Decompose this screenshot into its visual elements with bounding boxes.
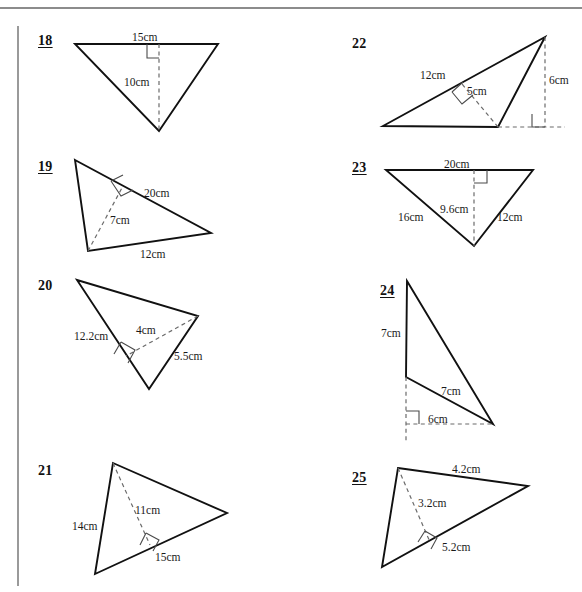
right-angle-marker-25 [425,531,437,549]
right-angle-marker-20b [114,342,121,354]
right-angle-marker-23 [474,170,487,183]
label-23-height: 9.6cm [440,203,468,215]
label-21-height: 11cm [135,504,160,516]
problem-number-22: 22 [352,36,367,52]
label-22-height: 5cm [467,85,487,97]
label-23-base: 20cm [444,158,470,170]
label-24-external-base: 6cm [428,413,448,425]
label-25-top-side: 4.2cm [452,463,480,475]
triangle-24-outline [406,281,493,424]
label-18-base: 15cm [132,31,158,43]
right-angle-marker-20 [121,342,135,363]
right-angle-marker-21b [140,533,146,545]
label-24-side: 7cm [381,327,401,339]
right-angle-marker-18 [147,44,159,58]
right-angle-marker-22-external [532,114,545,127]
label-25-height: 3.2cm [418,497,446,509]
right-angle-marker-22b [452,82,463,92]
triangle-19-outline [75,160,211,251]
worksheet-page: 18 15cm 10cm 19 20cm 7cm 12cm 20 12.2cm … [0,0,582,592]
right-angle-marker-24 [406,411,419,424]
problem-number-24: 24 [380,283,395,299]
label-22-side: 12cm [420,69,446,81]
top-divider-rule [0,7,582,9]
left-margin-rule [17,26,19,586]
right-angle-marker-19 [111,181,133,196]
label-21-base: 15cm [155,551,181,563]
label-20-side: 12.2cm [74,330,108,342]
problem-number-19: 19 [38,159,53,175]
problem-number-20: 20 [38,278,53,294]
problem-number-23: 23 [352,160,367,176]
label-20-base: 5.5cm [174,350,202,362]
right-angle-marker-21 [146,533,159,551]
label-23-left-side: 16cm [398,211,424,223]
problem-number-25: 25 [352,470,367,486]
label-19-height: 7cm [110,214,130,226]
label-23-right-side: 12cm [497,211,523,223]
label-21-side: 14cm [72,520,98,532]
problem-number-18: 18 [38,33,53,49]
label-19-base: 12cm [140,248,166,260]
right-angle-marker-19b [111,175,123,181]
triangle-22-outline [383,37,545,127]
right-angle-marker-25b [418,531,425,542]
label-22-external-height: 6cm [549,74,569,86]
label-25-base: 5.2cm [442,541,470,553]
label-24-base: 7cm [441,385,461,397]
label-19-side: 20cm [144,187,170,199]
label-20-height: 4cm [136,324,156,336]
problem-number-21: 21 [38,463,53,479]
label-18-height: 10cm [124,76,150,88]
